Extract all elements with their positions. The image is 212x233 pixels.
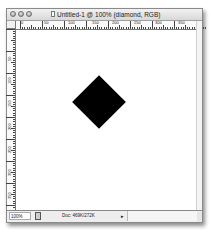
status-menu-icon[interactable]: [35, 212, 41, 220]
ruler-tick: [13, 53, 15, 54]
ruler-tick: [205, 27, 206, 29]
ruler-tick: [11, 40, 15, 41]
ruler-tick: [13, 187, 15, 188]
ruler-tick: [13, 192, 15, 193]
ruler-tick: [6, 205, 15, 206]
ruler-tick: [6, 161, 15, 162]
ruler-tick: [194, 27, 195, 29]
ruler-tick: [33, 27, 34, 29]
ruler-tick: [27, 27, 28, 29]
document-proxy-icon[interactable]: [51, 11, 55, 17]
ruler-tick: [13, 44, 15, 45]
ruler-tick: [13, 185, 15, 186]
ruler-tick: [31, 25, 32, 29]
ruler-tick: [13, 88, 15, 89]
ruler-tick: [150, 27, 151, 29]
diamond-shape[interactable]: [72, 75, 126, 129]
ruler-tick: [13, 58, 15, 59]
ruler-tick: [13, 179, 15, 180]
ruler-tick: [148, 27, 149, 29]
ruler-tick: [13, 97, 15, 98]
ruler-tick: [77, 27, 78, 29]
ruler-label: 300: [8, 169, 12, 176]
ruler-tick: [46, 27, 47, 29]
horizontal-ruler[interactable]: 050100150200250300350: [16, 21, 197, 30]
ruler-label: 200: [8, 123, 12, 130]
close-button[interactable]: [10, 11, 16, 17]
ruler-tick: [13, 126, 15, 127]
ruler-tick: [167, 27, 168, 29]
document-window: Untitled-1 @ 100% (diamond, RGB) 0501001…: [6, 8, 203, 223]
ruler-tick: [44, 27, 45, 29]
horizontal-scrollbar[interactable]: [127, 211, 197, 221]
minimize-button[interactable]: [18, 11, 24, 17]
zoom-button[interactable]: [26, 11, 32, 17]
ruler-tick: [170, 27, 171, 29]
canvas[interactable]: [16, 30, 197, 210]
ruler-tick: [82, 27, 83, 29]
ruler-tick: [13, 36, 15, 37]
vertical-ruler[interactable]: 50100150200250300350: [7, 29, 16, 210]
ruler-tick: [13, 86, 15, 87]
ruler-tick: [13, 47, 15, 48]
ruler-tick: [13, 82, 15, 83]
ruler-label: 0: [21, 21, 23, 25]
ruler-tick: [139, 27, 140, 29]
vertical-scrollbar[interactable]: [196, 21, 202, 210]
ruler-tick: [115, 27, 116, 29]
ruler-tick: [11, 84, 15, 85]
ruler-tick: [161, 27, 162, 29]
ruler-origin[interactable]: [7, 21, 16, 29]
ruler-tick: [13, 55, 15, 56]
ruler-tick: [13, 124, 15, 125]
ruler-tick: [181, 27, 182, 29]
ruler-tick: [13, 141, 15, 142]
ruler-tick: [29, 27, 30, 29]
ruler-tick: [13, 71, 15, 72]
ruler-label: 200: [112, 21, 119, 25]
ruler-tick: [13, 60, 15, 61]
ruler-label: 150: [8, 100, 12, 107]
ruler-tick: [13, 33, 15, 34]
ruler-tick: [86, 21, 87, 29]
ruler-tick: [13, 102, 15, 103]
ruler-tick: [60, 27, 61, 29]
zoom-level-field[interactable]: 100%: [9, 212, 31, 220]
title-bar[interactable]: Untitled-1 @ 100% (diamond, RGB): [7, 9, 202, 21]
ruler-tick: [93, 27, 94, 29]
ruler-tick: [13, 38, 15, 39]
ruler-label: 100: [68, 21, 75, 25]
ruler-tick: [112, 27, 113, 29]
ruler-label: 350: [8, 192, 12, 199]
ruler-tick: [35, 27, 36, 29]
ruler-tick: [84, 27, 85, 29]
ruler-tick: [6, 139, 15, 140]
ruler-tick: [68, 27, 69, 29]
ruler-tick: [203, 27, 204, 29]
resize-grip[interactable]: [197, 212, 202, 222]
ruler-tick: [66, 27, 67, 29]
ruler-label: 100: [8, 77, 12, 84]
ruler-tick: [13, 154, 15, 155]
ruler-tick: [13, 80, 15, 81]
ruler-tick: [119, 25, 120, 29]
ruler-tick: [13, 42, 15, 43]
ruler-tick: [6, 51, 15, 52]
ruler-tick: [73, 27, 74, 29]
ruler-tick: [159, 27, 160, 29]
ruler-tick: [132, 27, 133, 29]
ruler-tick: [13, 104, 15, 105]
status-arrow-icon[interactable]: ▸: [120, 213, 125, 219]
ruler-tick: [13, 207, 15, 208]
ruler-tick: [154, 27, 155, 29]
ruler-tick: [106, 27, 107, 29]
ruler-tick: [57, 27, 58, 29]
ruler-tick: [13, 148, 15, 149]
ruler-label: 350: [178, 21, 185, 25]
ruler-tick: [13, 201, 15, 202]
ruler-label: 150: [92, 21, 99, 25]
ruler-tick: [13, 168, 15, 169]
ruler-tick: [13, 115, 15, 116]
ruler-tick: [38, 27, 39, 29]
ruler-tick: [13, 170, 15, 171]
